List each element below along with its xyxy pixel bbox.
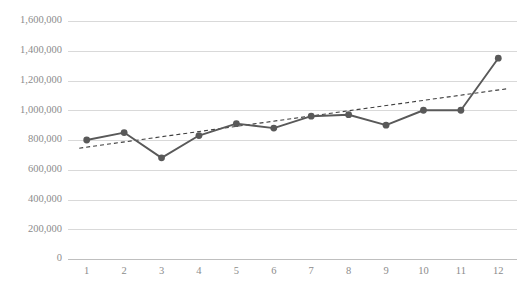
data-point-marker — [233, 120, 240, 127]
data-point-marker — [495, 55, 502, 62]
x-axis-tick-label: 5 — [234, 265, 239, 276]
x-axis-tick-label: 9 — [383, 265, 388, 276]
data-point-marker — [121, 129, 128, 136]
x-axis-tick-label: 3 — [159, 265, 164, 276]
line-chart: 0200,000400,000600,000800,0001,000,0001,… — [0, 0, 528, 288]
x-axis-tick-label: 12 — [493, 265, 504, 276]
y-axis-tick-label: 400,000 — [28, 193, 62, 204]
x-axis-tick-label: 2 — [122, 265, 127, 276]
x-axis-tick-label: 7 — [309, 265, 314, 276]
x-axis-tick-label: 1 — [84, 265, 89, 276]
data-point-marker — [345, 111, 352, 118]
y-axis-tick-label: 1,600,000 — [20, 14, 62, 25]
y-axis-tick-label: 200,000 — [28, 223, 62, 234]
data-point-marker — [457, 107, 464, 114]
x-axis-tick-label: 8 — [346, 265, 351, 276]
y-axis-tick-label: 1,000,000 — [20, 104, 62, 115]
chart-background — [0, 0, 528, 288]
data-point-marker — [383, 122, 390, 129]
x-axis-tick-label: 6 — [271, 265, 276, 276]
y-axis-tick-label: 1,400,000 — [20, 44, 62, 55]
data-point-marker — [158, 154, 165, 161]
data-point-marker — [196, 132, 203, 139]
x-axis-tick-label: 11 — [456, 265, 466, 276]
x-axis-tick-label: 4 — [196, 265, 202, 276]
y-axis-tick-label: 600,000 — [28, 163, 62, 174]
y-axis-tick-label: 800,000 — [28, 133, 62, 144]
data-point-marker — [308, 113, 315, 120]
data-point-marker — [270, 125, 277, 132]
y-axis-tick-label: 0 — [57, 252, 62, 263]
y-axis-tick-label: 1,200,000 — [20, 74, 62, 85]
data-point-marker — [83, 137, 90, 144]
x-axis-tick-label: 10 — [418, 265, 429, 276]
data-point-marker — [420, 107, 427, 114]
chart-container: 0200,000400,000600,000800,0001,000,0001,… — [0, 0, 528, 288]
